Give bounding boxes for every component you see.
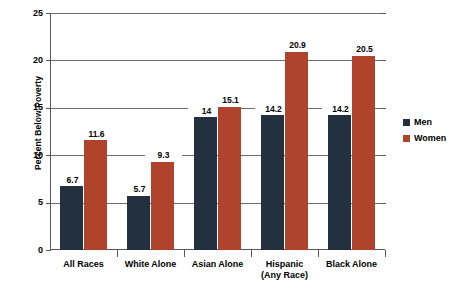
x-axis-category-label: White Alone	[117, 259, 184, 270]
bar-women	[352, 56, 375, 250]
bar-women	[285, 52, 308, 250]
y-axis-tick-label: 5	[3, 198, 43, 207]
x-axis-tick	[251, 250, 252, 257]
y-axis-tick-label: 15	[3, 103, 43, 112]
x-axis-category-label: Black Alone	[318, 259, 385, 270]
bar-group: 14.220.9	[251, 13, 318, 250]
legend-label: Men	[414, 118, 432, 127]
bar-men	[328, 115, 351, 250]
bar-value-label: 15.1	[212, 96, 249, 105]
y-axis-tick-label: 25	[3, 9, 43, 18]
y-axis-tick-label: 10	[3, 151, 43, 160]
bar-women	[84, 140, 107, 250]
x-axis-category-label: Hispanic (Any Race)	[251, 259, 318, 281]
bar-value-label: 20.9	[279, 41, 316, 50]
bar-men	[60, 186, 83, 250]
bar-group: 14.220.5	[318, 13, 385, 250]
bar-men	[127, 196, 150, 250]
legend-item-men: Men	[403, 117, 446, 128]
legend-swatch-icon	[403, 135, 410, 142]
legend-label: Women	[414, 134, 446, 143]
bar-men	[261, 115, 284, 250]
bar-group: 1415.1	[184, 13, 251, 250]
x-axis-category-label: All Races	[50, 259, 117, 270]
bar-group: 5.79.3	[117, 13, 184, 250]
bar-group: 6.711.6	[50, 13, 117, 250]
bar-value-label: 11.6	[78, 130, 115, 139]
chart-legend: MenWomen	[403, 117, 446, 149]
legend-item-women: Women	[403, 133, 446, 144]
bar-value-label: 9.3	[145, 151, 182, 160]
y-axis-tick-label: 0	[3, 246, 43, 255]
bar-groups: 6.711.65.79.31415.114.220.914.220.5	[50, 13, 385, 250]
x-axis-tick	[318, 250, 319, 257]
bar-value-label: 20.5	[346, 45, 383, 54]
bar-men	[194, 117, 217, 250]
x-axis-tick-end	[385, 250, 386, 257]
bar-women	[151, 162, 174, 250]
y-axis-tick	[46, 250, 51, 251]
y-axis-tick-labels: 0510152025	[0, 13, 43, 250]
x-axis-tick	[184, 250, 185, 257]
y-axis-tick-label: 20	[3, 56, 43, 65]
poverty-bar-chart: Percent Below Poverty 0510152025 6.711.6…	[0, 0, 460, 287]
x-axis-category-label: Asian Alone	[184, 259, 251, 270]
bar-women	[218, 107, 241, 250]
legend-swatch-icon	[403, 119, 410, 126]
x-axis-tick	[117, 250, 118, 257]
